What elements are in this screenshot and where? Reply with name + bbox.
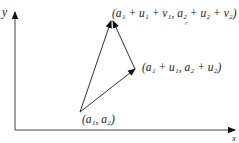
small-mark: r xyxy=(185,20,188,27)
vector-u-plus-v xyxy=(80,21,111,112)
apex-label: (a₁ + u₁ + v₁, a₂ + u₂ + v₂) xyxy=(112,8,237,20)
vector-v xyxy=(113,21,135,69)
vector-u xyxy=(80,69,135,112)
start-point-label: (a₁, a₂) xyxy=(82,114,115,126)
x-axis-label: x xyxy=(232,134,236,143)
u-tip-label: (a₁ + u₁, a₂ + u₂) xyxy=(142,62,221,74)
y-axis-label: y xyxy=(2,7,7,19)
